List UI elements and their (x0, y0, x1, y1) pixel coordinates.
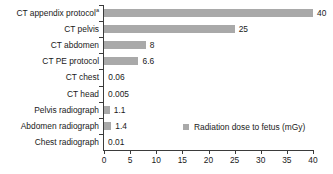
bar-value-label: 0.01 (108, 138, 124, 146)
bar (104, 106, 110, 114)
category-tick (99, 86, 103, 87)
bar-value-label: 1.4 (115, 122, 127, 130)
bar-value-label: 1.1 (114, 105, 126, 113)
category-label: CT appendix protocola (16, 9, 99, 17)
bar-row: CT abdomen8 (0, 37, 333, 53)
x-axis-tick (235, 150, 236, 154)
x-axis-tick-label: 20 (204, 156, 213, 164)
category-label: CT head (67, 89, 99, 97)
x-axis-tick (104, 150, 105, 154)
x-axis-tick-label: 25 (230, 156, 239, 164)
bar-value-label: 6.6 (142, 57, 154, 65)
bar-value-label: 0.005 (108, 89, 129, 97)
x-axis-tick-label: 40 (308, 156, 317, 164)
x-axis-tick-label: 5 (128, 156, 133, 164)
x-axis-tick (261, 150, 262, 154)
bar-value-label: 25 (239, 25, 248, 33)
bar-row: CT chest0.06 (0, 69, 333, 85)
bar-row: CT head0.005 (0, 86, 333, 102)
x-axis-tick-label: 30 (256, 156, 265, 164)
category-tick (99, 69, 103, 70)
x-axis-tick (287, 150, 288, 154)
legend: Radiation dose to fetus (mGy) (183, 123, 305, 131)
x-axis-tick-label: 0 (102, 156, 107, 164)
bar-row: CT PE protocol6.6 (0, 53, 333, 69)
x-axis-tick (156, 150, 157, 154)
category-tick (99, 21, 103, 22)
bar-row: CT appendix protocola40 (0, 5, 333, 21)
category-tick (99, 5, 103, 6)
bar (104, 57, 138, 65)
category-label: CT PE protocol (42, 57, 99, 65)
bar-value-label: 40 (317, 9, 326, 17)
bar (104, 122, 111, 130)
x-axis-tick (130, 150, 131, 154)
x-axis-tick (182, 150, 183, 154)
x-axis-tick-label: 15 (178, 156, 187, 164)
category-tick (99, 118, 103, 119)
category-label: CT abdomen (51, 41, 99, 49)
bar-row: Pelvis radiograph1.1 (0, 102, 333, 118)
bar (104, 41, 146, 49)
category-label: CT chest (66, 73, 99, 81)
category-tick (99, 134, 103, 135)
x-axis-tick-label: 10 (152, 156, 161, 164)
bar (104, 25, 235, 33)
bar (104, 9, 313, 17)
x-axis-tick (313, 150, 314, 154)
bar-row: CT pelvis25 (0, 21, 333, 37)
category-tick (99, 53, 103, 54)
category-tick (99, 102, 103, 103)
legend-swatch-icon (183, 124, 189, 130)
category-label: Pelvis radiograph (34, 105, 99, 113)
category-tick (99, 37, 103, 38)
legend-label: Radiation dose to fetus (mGy) (194, 123, 305, 131)
bar-value-label: 0.06 (108, 73, 124, 81)
x-axis-tick-label: 35 (282, 156, 291, 164)
category-label: CT pelvis (64, 25, 99, 33)
x-axis-tick (209, 150, 210, 154)
bar-value-label: 8 (150, 41, 155, 49)
bar-chart: CT appendix protocola40CT pelvis25CT abd… (0, 0, 333, 174)
category-label: Abdomen radiograph (21, 122, 99, 130)
category-label: Chest radiograph (35, 138, 99, 146)
category-footnote-marker: a (96, 7, 99, 13)
bar-row: Chest radiograph0.01 (0, 134, 333, 150)
